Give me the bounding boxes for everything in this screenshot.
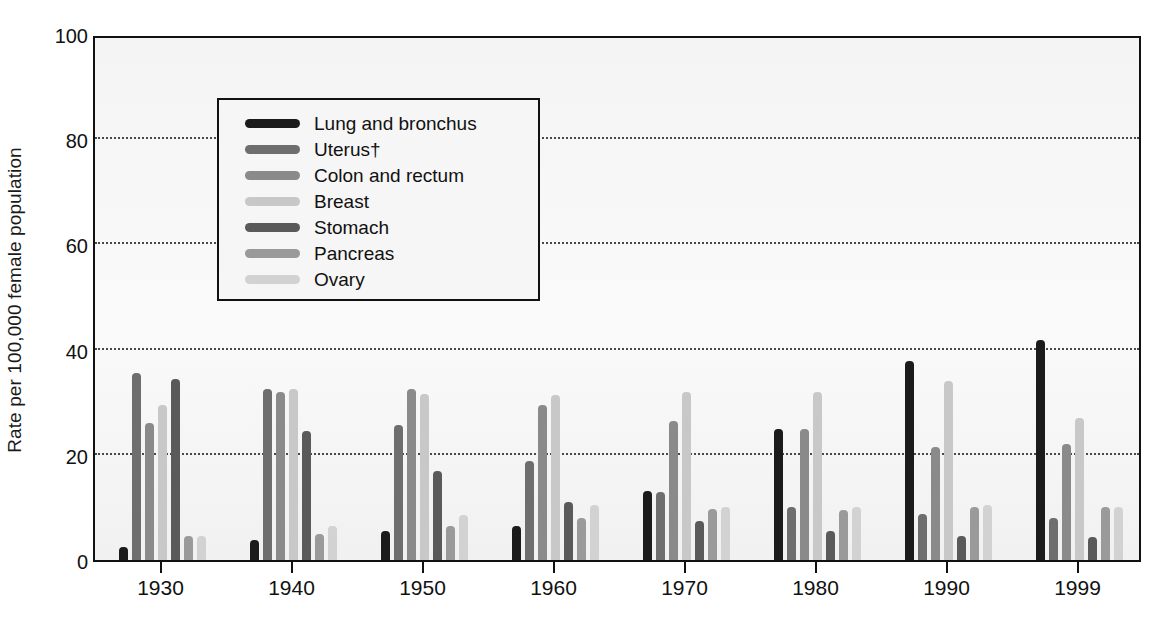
bar	[826, 531, 835, 560]
plot-area: Lung and bronchusUterus†Colon and rectum…	[93, 36, 1141, 562]
legend-swatch-icon	[245, 119, 300, 128]
bar	[145, 423, 154, 560]
y-axis-tick-80: 80	[34, 130, 88, 153]
bar	[682, 392, 691, 560]
legend-item-2: Uterus†	[219, 136, 538, 162]
bar	[852, 507, 861, 560]
legend-item-5: Stomach	[219, 214, 538, 240]
bar	[774, 429, 783, 561]
x-axis-tick-label-1960: 1960	[509, 576, 599, 600]
bar	[551, 395, 560, 560]
y-axis-tick-labels: 020406080100	[30, 0, 88, 618]
y-axis-title: Rate per 100,000 female population	[0, 0, 30, 600]
bar	[721, 507, 730, 560]
bar	[931, 447, 940, 560]
bar	[1049, 518, 1058, 560]
bar	[394, 425, 403, 560]
bar	[695, 521, 704, 560]
x-axis-tick-label-1970: 1970	[640, 576, 730, 600]
bar	[1075, 418, 1084, 560]
legend-item-3: Colon and rectum	[219, 162, 538, 188]
bar	[276, 392, 285, 560]
x-axis-tick-label-1999: 1999	[1033, 576, 1123, 600]
bar	[381, 531, 390, 560]
legend-item-1: Lung and bronchus	[219, 110, 538, 136]
bar	[289, 389, 298, 560]
bar-group-1970	[643, 38, 730, 560]
bar	[564, 502, 573, 560]
legend-item-label: Pancreas	[314, 244, 394, 263]
y-axis-tick-0: 0	[34, 551, 88, 574]
x-axis-tick-mark-1960	[553, 562, 555, 573]
bar	[983, 505, 992, 560]
chart-page: Rate per 100,000 female population 02040…	[0, 0, 1171, 618]
bar	[315, 534, 324, 560]
legend-swatch-icon	[245, 197, 300, 206]
bar	[263, 389, 272, 560]
x-axis-tick-mark-1950	[422, 562, 424, 573]
bar	[328, 526, 337, 560]
bar	[1062, 444, 1071, 560]
bar	[158, 405, 167, 560]
x-axis-tick-label-1950: 1950	[378, 576, 468, 600]
legend-item-label: Lung and bronchus	[314, 114, 477, 133]
bar	[708, 509, 717, 560]
bar	[970, 507, 979, 560]
bar	[577, 518, 586, 560]
legend-swatch-icon	[245, 275, 300, 284]
bar	[525, 461, 534, 560]
bar	[839, 510, 848, 560]
bar	[407, 389, 416, 560]
y-axis-tick-20: 20	[34, 445, 88, 468]
x-axis-tick-mark-1990	[946, 562, 948, 573]
bar-group-1980	[774, 38, 861, 560]
bar	[669, 421, 678, 560]
bar	[944, 381, 953, 560]
y-axis-tick-40: 40	[34, 340, 88, 363]
x-axis-tick-mark-1940	[291, 562, 293, 573]
bar	[1101, 507, 1110, 560]
legend-item-label: Uterus†	[314, 140, 381, 159]
bar	[813, 392, 822, 560]
bar	[1036, 340, 1045, 560]
legend-item-label: Ovary	[314, 270, 365, 289]
bar-group-1990	[905, 38, 992, 560]
bar	[420, 394, 429, 560]
bar	[250, 540, 259, 560]
bar	[538, 405, 547, 560]
bar	[905, 361, 914, 560]
bar	[957, 536, 966, 560]
bar	[918, 514, 927, 560]
bar	[171, 379, 180, 560]
bar	[656, 492, 665, 560]
y-axis-title-text: Rate per 100,000 female population	[4, 147, 26, 453]
bar	[197, 536, 206, 560]
x-axis-tick-label-1930: 1930	[116, 576, 206, 600]
x-axis-tick-label-1940: 1940	[247, 576, 337, 600]
bar	[1088, 537, 1097, 560]
legend-swatch-icon	[245, 145, 300, 154]
bar	[132, 373, 141, 560]
legend-item-label: Colon and rectum	[314, 166, 464, 185]
bar	[446, 526, 455, 560]
bar	[590, 505, 599, 560]
legend-swatch-icon	[245, 249, 300, 258]
x-axis-tick-mark-1930	[160, 562, 162, 573]
bar	[119, 547, 128, 560]
x-axis-tick-label-1990: 1990	[902, 576, 992, 600]
legend-item-4: Breast	[219, 188, 538, 214]
legend: Lung and bronchusUterus†Colon and rectum…	[217, 98, 540, 301]
legend-item-6: Pancreas	[219, 240, 538, 266]
bar	[787, 507, 796, 560]
x-axis-tick-mark-1980	[815, 562, 817, 573]
legend-swatch-icon	[245, 171, 300, 180]
legend-item-label: Stomach	[314, 218, 389, 237]
legend-item-7: Ovary	[219, 266, 538, 292]
bar	[512, 526, 521, 560]
bar	[643, 491, 652, 560]
bar	[459, 515, 468, 560]
bar	[302, 431, 311, 560]
page-footer-blank	[0, 604, 1171, 618]
bar-group-1930	[119, 38, 206, 560]
y-axis-tick-60: 60	[34, 235, 88, 258]
